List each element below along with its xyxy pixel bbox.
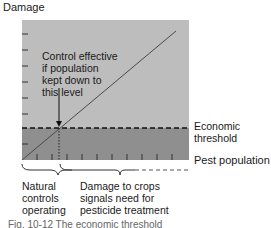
figure-caption: Fig. 10-12 The economic threshold [8,219,162,228]
brace-markers [20,163,195,177]
x-axis-label: Pest population [194,154,270,166]
economic-threshold-label: Economic threshold [194,120,240,144]
natural-controls-label: Natural controls operating [22,180,66,216]
annotation-control-effective: Control effective if population kept dow… [42,50,118,98]
y-axis-label: Damage [3,1,45,13]
damage-crops-label: Damage to crops signals need for pestici… [80,180,169,216]
